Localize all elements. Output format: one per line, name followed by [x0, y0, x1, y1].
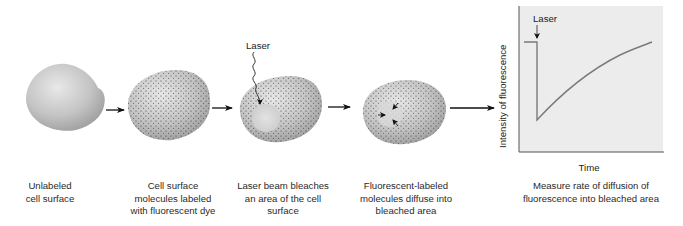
cell-labeled	[128, 70, 210, 140]
caption-line: Cell surface	[120, 180, 226, 193]
caption-line: surface	[230, 205, 336, 218]
caption-line: molecules labeled	[120, 193, 226, 206]
cell-bleached	[240, 76, 322, 142]
caption-step-1: Unlabeled cell surface	[14, 180, 86, 205]
caption-step-4: Fluorescent-labeled molecules diffuse in…	[350, 180, 462, 218]
caption-line: with fluorescent dye	[120, 205, 226, 218]
fluorescence-graph: Laser Intensity of fluorescence Time	[497, 6, 664, 173]
caption-line: Measure rate of diffusion of	[516, 180, 666, 193]
caption-line: molecules diffuse into	[350, 193, 462, 206]
caption-line: Laser beam bleaches	[230, 180, 336, 193]
caption-step-5: Measure rate of diffusion of fluorescenc…	[516, 180, 666, 205]
caption-line: Unlabeled	[14, 180, 86, 193]
caption-line: fluorescence into bleached area	[516, 193, 666, 206]
caption-line: bleached area	[350, 205, 462, 218]
graph-laser-label: Laser	[533, 13, 558, 24]
cell-diffusing	[363, 80, 446, 144]
bleached-spot	[252, 104, 280, 132]
graph-panel	[519, 6, 663, 152]
caption-step-3: Laser beam bleaches an area of the cell …	[230, 180, 336, 218]
x-axis-label: Time	[579, 162, 600, 173]
caption-line: cell surface	[14, 193, 86, 206]
caption-line: Fluorescent-labeled	[350, 180, 462, 193]
cell-unlabeled	[26, 64, 105, 131]
y-axis-label: Intensity of fluorescence	[497, 45, 508, 148]
caption-line: an area of the cell	[230, 193, 336, 206]
laser-label: Laser	[246, 40, 271, 51]
caption-step-2: Cell surface molecules labeled with fluo…	[120, 180, 226, 218]
